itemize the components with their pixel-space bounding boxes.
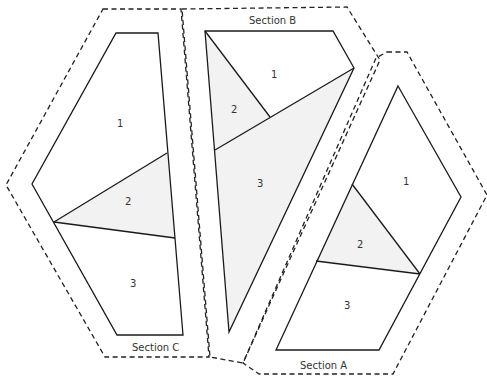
section-c-seam-allowance <box>6 9 209 357</box>
section-c-piece-2-fill <box>54 153 175 238</box>
section-a-piece-1-label: 1 <box>403 176 409 187</box>
section-a-label: Section A <box>300 360 347 371</box>
section-c: 1 2 3 Section C <box>6 9 209 357</box>
section-b-label: Section B <box>249 15 296 26</box>
section-a-piece-3-label: 3 <box>344 300 350 311</box>
section-c-piece-2-label: 2 <box>125 196 131 207</box>
section-a-piece-2-label: 2 <box>357 239 363 250</box>
section-c-piece-1-label: 1 <box>117 118 123 129</box>
section-c-label: Section C <box>132 342 179 353</box>
section-b-piece-2-label: 2 <box>231 104 237 115</box>
section-b-piece-1-label: 1 <box>271 69 277 80</box>
section-b-piece-3-label: 3 <box>257 178 263 189</box>
section-c-piece-3-label: 3 <box>130 278 136 289</box>
paper-piecing-diagram: 1 2 3 Section C 1 2 3 Section B 1 2 3 Se… <box>0 0 487 381</box>
